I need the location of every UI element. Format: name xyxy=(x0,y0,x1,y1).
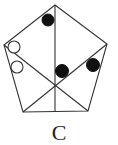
filled-circle-right xyxy=(87,59,100,72)
filled-circle-center xyxy=(56,65,69,78)
diagonal-left-to-right xyxy=(4,45,88,111)
option-label: C xyxy=(0,120,118,145)
diagonal-right-to-left xyxy=(23,44,107,112)
open-circle-lower xyxy=(11,61,23,73)
filled-circle-top xyxy=(42,14,54,26)
open-circle-upper xyxy=(8,41,20,53)
